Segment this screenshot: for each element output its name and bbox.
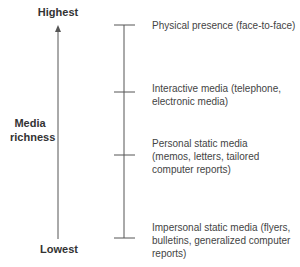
axis-top-label: Highest xyxy=(30,6,86,18)
axis-middle-label-line2: richness xyxy=(10,130,50,144)
level-label-personal-static-media: Personal static media (memos, letters, t… xyxy=(152,137,287,176)
level-label-physical-presence: Physical presence (face-to-face) xyxy=(152,19,297,32)
axis-middle-label: Media richness xyxy=(10,116,50,144)
axis-middle-label-line1: Media xyxy=(10,116,50,130)
axis-bottom-label: Lowest xyxy=(34,243,84,255)
level-label-impersonal-static-media: Impersonal static media (flyers, bulleti… xyxy=(152,221,292,260)
arrow-head-icon xyxy=(55,25,61,32)
level-label-interactive-media: Interactive media (telephone, electronic… xyxy=(152,82,292,108)
